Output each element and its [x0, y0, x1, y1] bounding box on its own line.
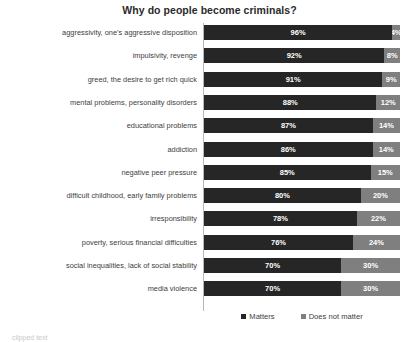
bar-segment-does-not-matter: 30% — [341, 281, 400, 296]
bar-segment-does-not-matter: 14% — [373, 118, 400, 133]
category-label: aggressivity, one’s aggressive dispositi… — [0, 25, 197, 40]
bar-segment-does-not-matter: 12% — [376, 95, 400, 110]
bar-segment-matters: 80% — [204, 188, 361, 203]
bar-segment-matters: 91% — [204, 72, 382, 87]
legend-item[interactable]: Does not matter — [301, 312, 363, 321]
bar-segment-does-not-matter: 24% — [353, 235, 400, 250]
legend-swatch-icon — [301, 314, 306, 319]
chart-title: Why do people become criminals? — [0, 4, 419, 16]
chart-legend: MattersDoes not matter — [204, 312, 400, 321]
bar-segment-does-not-matter: 9% — [382, 72, 400, 87]
bar-segment-does-not-matter: 4% — [392, 25, 400, 40]
bar-row: 87%14% — [204, 118, 400, 133]
legend-label: Matters — [249, 312, 274, 321]
bar-segment-does-not-matter: 15% — [371, 165, 400, 180]
bar-segment-does-not-matter: 8% — [384, 48, 400, 63]
category-label: irresponsibility — [0, 211, 197, 226]
bar-segment-matters: 85% — [204, 165, 371, 180]
bar-segment-matters: 78% — [204, 211, 357, 226]
bar-segment-matters: 88% — [204, 95, 376, 110]
category-label: mental problems, personality disorders — [0, 95, 197, 110]
bar-row: 88%12% — [204, 95, 400, 110]
bar-segment-matters: 92% — [204, 48, 384, 63]
bar-segment-matters: 70% — [204, 281, 341, 296]
legend-item[interactable]: Matters — [241, 312, 274, 321]
bar-row: 86%14% — [204, 142, 400, 157]
bar-segment-matters: 86% — [204, 142, 373, 157]
clipped-caption: clipped text — [12, 333, 252, 342]
category-label: impulsivity, revenge — [0, 48, 197, 63]
bar-segment-does-not-matter: 20% — [361, 188, 400, 203]
bar-segment-does-not-matter: 30% — [341, 258, 400, 273]
category-label: media violence — [0, 281, 197, 296]
legend-swatch-icon — [241, 314, 246, 319]
bar-segment-does-not-matter: 22% — [357, 211, 400, 226]
category-label: addiction — [0, 142, 197, 157]
category-label: poverty, serious financial difficulties — [0, 235, 197, 250]
bar-row: 80%20% — [204, 188, 400, 203]
category-label: negative peer pressure — [0, 165, 197, 180]
bar-row: 78%22% — [204, 211, 400, 226]
bar-row: 70%30% — [204, 281, 400, 296]
category-label: educational problems — [0, 118, 197, 133]
bar-segment-matters: 70% — [204, 258, 341, 273]
bar-segment-matters: 87% — [204, 118, 373, 133]
bar-segment-does-not-matter: 14% — [373, 142, 400, 157]
bar-row: 70%30% — [204, 258, 400, 273]
category-label: difficult childhood, early family proble… — [0, 188, 197, 203]
plot-area: 96%4%92%8%91%9%88%12%87%14%86%14%85%15%8… — [204, 25, 400, 306]
category-label: social inequalities, lack of social stab… — [0, 258, 197, 273]
caption-text: clipped text — [12, 333, 252, 342]
chart-container: Why do people become criminals? aggressi… — [0, 0, 419, 342]
bar-row: 85%15% — [204, 165, 400, 180]
bar-row: 76%24% — [204, 235, 400, 250]
bar-segment-matters: 76% — [204, 235, 353, 250]
bar-row: 96%4% — [204, 25, 400, 40]
legend-label: Does not matter — [309, 312, 363, 321]
bar-row: 91%9% — [204, 72, 400, 87]
bar-segment-matters: 96% — [204, 25, 392, 40]
bar-row: 92%8% — [204, 48, 400, 63]
category-label: greed, the desire to get rich quick — [0, 72, 197, 87]
